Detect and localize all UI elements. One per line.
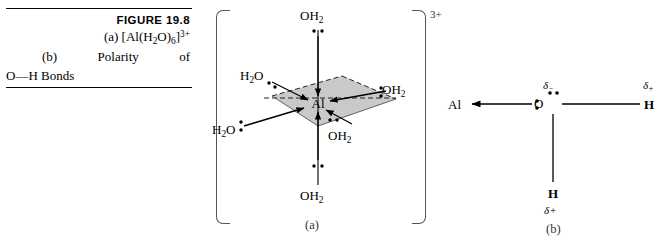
panel-b-bond-polarity: Al O H H δ− δ+ δ+ (b) bbox=[440, 0, 672, 243]
ligand-label-back-right: OH2 bbox=[382, 82, 405, 99]
panel-a-complex-ion: 3+ bbox=[200, 0, 470, 243]
panel-a-caption-label: (a) bbox=[305, 218, 319, 233]
atom-label-al: Al bbox=[448, 97, 461, 113]
caption-b-word1: Polarity bbox=[98, 48, 139, 66]
ligand-label-axial-bottom: OH2 bbox=[300, 188, 323, 205]
ligand-label-front-left: H2O bbox=[212, 122, 235, 139]
ligand-label-axial-top: OH2 bbox=[300, 8, 323, 25]
figure-caption: FIGURE 19.8 (a) [Al(H2O)6]3+ (b) Polarit… bbox=[6, 8, 192, 88]
atom-label-o: O bbox=[534, 96, 544, 112]
central-atom-label: Al bbox=[312, 96, 325, 111]
caption-line-c: O—H Bonds bbox=[6, 67, 192, 85]
delta-minus-label: δ− bbox=[543, 79, 553, 93]
caption-line-a: (a) [Al(H2O)6]3+ bbox=[6, 28, 192, 48]
caption-rule-bottom bbox=[6, 87, 192, 88]
octahedral-structure: Al bbox=[200, 0, 470, 215]
equatorial-plane bbox=[272, 76, 396, 126]
delta-plus-label-right: δ+ bbox=[643, 79, 653, 93]
caption-rule-top bbox=[6, 8, 192, 9]
caption-line-b: (b) Polarity of bbox=[6, 48, 192, 66]
delta-plus-label-bottom: δ+ bbox=[544, 204, 557, 216]
panel-b-caption-label: (b) bbox=[546, 222, 561, 237]
atom-label-h-bottom: H bbox=[548, 186, 558, 202]
caption-b-word2: of bbox=[179, 48, 190, 66]
ligand-label-back-left: H2O bbox=[240, 68, 263, 85]
figure-19-8: FIGURE 19.8 (a) [Al(H2O)6]3+ (b) Polarit… bbox=[0, 0, 672, 243]
atom-label-h-right: H bbox=[644, 97, 654, 113]
caption-a-formula: [Al(H2O)6]3+ bbox=[122, 29, 190, 44]
caption-a-marker: (a) bbox=[104, 29, 118, 44]
ligand-label-front-right: OH2 bbox=[328, 128, 351, 145]
caption-b-marker: (b) bbox=[42, 48, 57, 66]
bond-arrow-front-left bbox=[244, 108, 304, 126]
figure-number: FIGURE 19.8 bbox=[6, 12, 192, 28]
